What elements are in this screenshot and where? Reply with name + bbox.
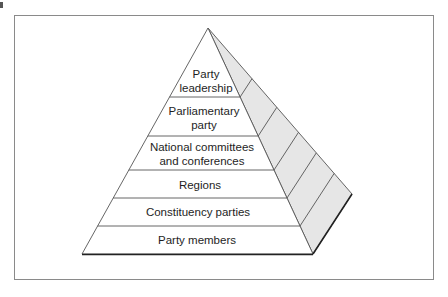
level-label-constituency-parties: Constituency parties — [146, 205, 250, 219]
label-line: Constituency parties — [146, 205, 250, 219]
label-line: Parliamentary — [169, 104, 240, 118]
label-line: National committees — [150, 140, 254, 154]
level-label-party-leadership: Party leadership — [179, 67, 232, 95]
level-label-national-committees: National committees and conferences — [150, 140, 254, 168]
label-line: Party — [179, 67, 232, 81]
level-label-parliamentary-party: Parliamentary party — [169, 104, 240, 132]
level-label-party-members: Party members — [158, 233, 236, 247]
label-line: party — [169, 118, 240, 132]
level-label-regions: Regions — [179, 178, 221, 192]
label-line: Party members — [158, 233, 236, 247]
label-line: Regions — [179, 178, 221, 192]
pyramid-diagram: Party leadership Parliamentary party Nat… — [0, 0, 448, 297]
label-line: and conferences — [150, 154, 254, 168]
label-line: leadership — [179, 81, 232, 95]
